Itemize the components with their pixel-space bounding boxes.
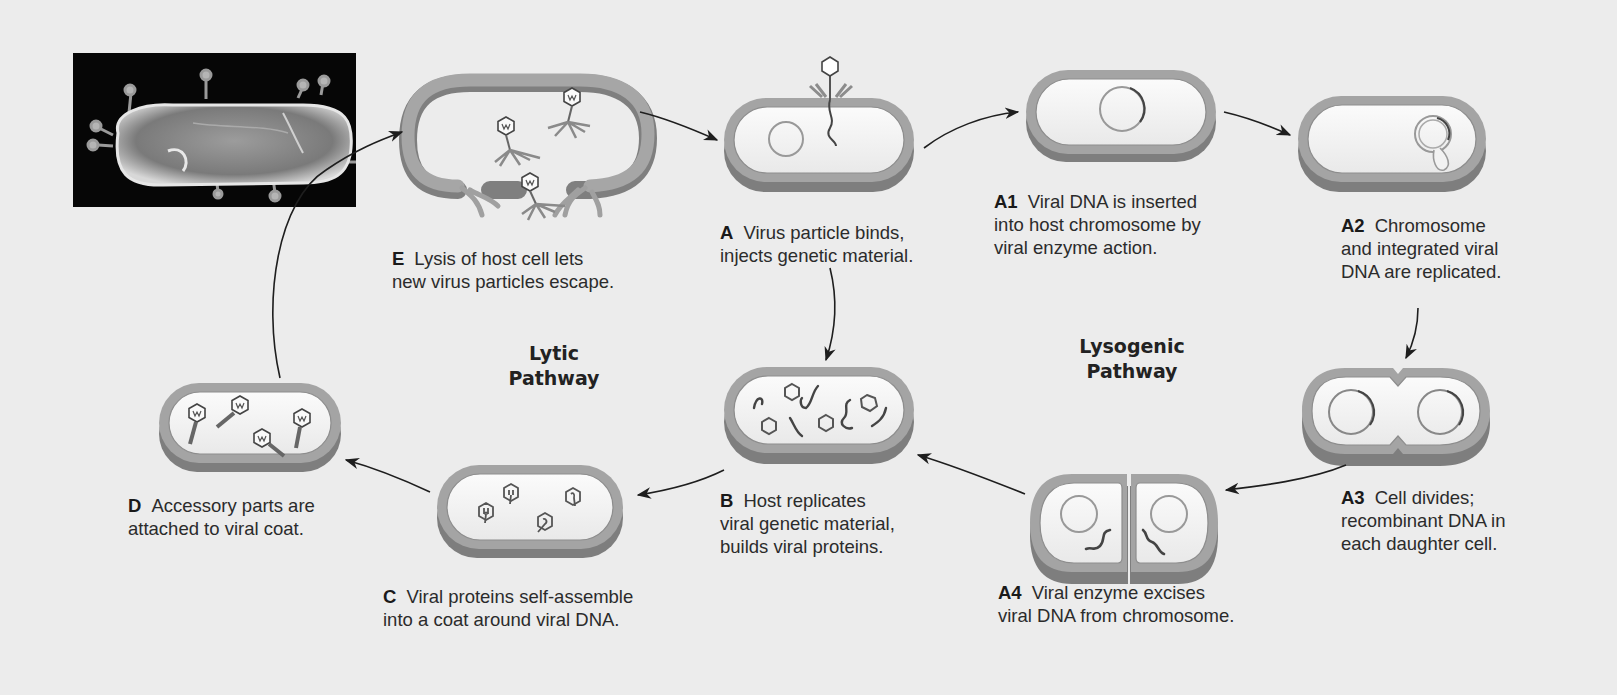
step-tag: D	[128, 495, 141, 516]
step-tag: A	[720, 222, 733, 243]
caption-e: ELysis of host cell lets new virus parti…	[392, 247, 614, 293]
lytic-pathway-title: Lytic Pathway	[484, 341, 624, 391]
caption-a2: A2Chromosome and integrated viral DNA ar…	[1341, 214, 1501, 283]
caption-c: CViral proteins self-assemble into a coa…	[383, 585, 633, 631]
arrow-d-to-e	[273, 132, 402, 378]
arrow-a1-to-a2	[1224, 112, 1290, 135]
cell-b-replication	[724, 367, 914, 464]
step-tag: C	[383, 586, 396, 607]
step-tag: E	[392, 248, 404, 269]
cell-a1-insertion	[1026, 70, 1216, 162]
cell-a-binding	[724, 57, 914, 192]
step-tag: A1	[994, 191, 1018, 212]
arrow-a-to-b	[826, 268, 835, 360]
cell-e-lysis	[408, 80, 648, 220]
caption-b: BHost replicates viral genetic material,…	[720, 489, 895, 558]
cell-a4-excision	[1030, 474, 1218, 584]
caption-a: AVirus particle binds, injects genetic m…	[720, 221, 913, 267]
caption-a3: A3Cell divides; recombinant DNA in each …	[1341, 486, 1506, 555]
step-tag: B	[720, 490, 733, 511]
cell-c-assembly	[437, 465, 623, 558]
arrow-b-to-c	[638, 470, 724, 495]
lysogenic-pathway-title: Lysogenic Pathway	[1052, 334, 1212, 384]
caption-d: DAccessory parts are attached to viral c…	[128, 494, 315, 540]
caption-a4: A4Viral enzyme excises viral DNA from ch…	[998, 581, 1234, 627]
arrow-c-to-d	[346, 460, 430, 492]
step-tag: A2	[1341, 215, 1365, 236]
phage-lifecycle-diagram: ELysis of host cell lets new virus parti…	[0, 0, 1617, 695]
step-tag: A3	[1341, 487, 1365, 508]
cell-a2-replication	[1298, 96, 1486, 192]
step-tag: A4	[998, 582, 1022, 603]
arrow-a3-to-a4	[1226, 465, 1346, 490]
arrow-a4-to-b	[918, 455, 1025, 494]
cell-d-accessory	[159, 383, 341, 472]
cell-a3-division	[1302, 368, 1490, 466]
diagram-graphics	[0, 0, 1617, 695]
arrow-a-to-a1	[924, 112, 1018, 148]
arrow-a2-to-a3	[1406, 308, 1418, 358]
caption-a1: A1Viral DNA is inserted into host chromo…	[994, 190, 1201, 259]
